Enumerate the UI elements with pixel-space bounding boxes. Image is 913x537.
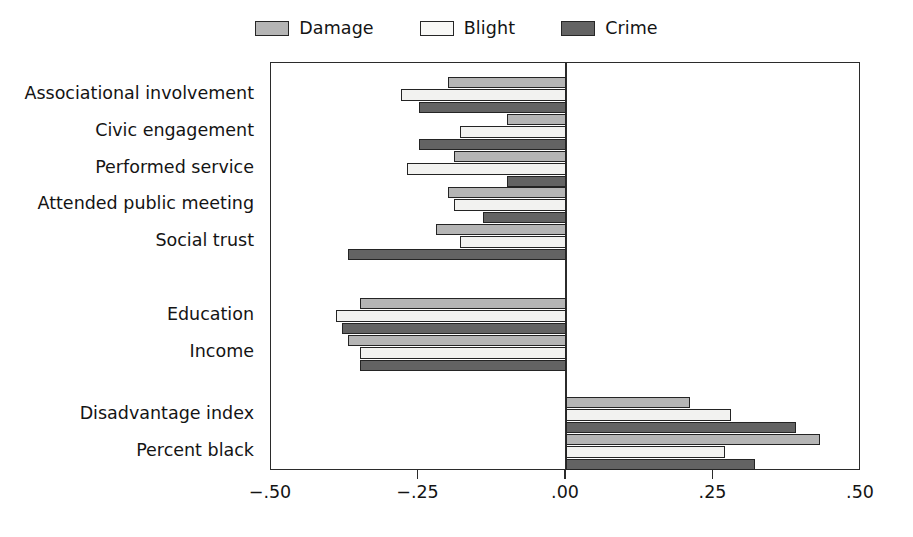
bar-crime — [342, 323, 566, 335]
bar-blight — [454, 199, 566, 211]
y-axis-category-labels: Associational involvementCivic engagemen… — [0, 0, 262, 537]
y-axis-label: Income — [190, 343, 254, 361]
bar-blight — [401, 89, 566, 101]
y-axis-label: Attended public meeting — [37, 195, 254, 213]
bar-damage — [454, 151, 566, 163]
x-axis-tick-label: −.25 — [396, 482, 439, 502]
legend-entry-damage: Damage — [255, 18, 373, 38]
bar-crime — [566, 459, 755, 471]
y-axis-label: Education — [167, 306, 254, 324]
bar-crime — [419, 139, 567, 151]
bar-damage — [348, 335, 566, 347]
legend-label-blight: Blight — [464, 18, 515, 38]
x-axis-tick — [712, 470, 714, 479]
x-axis-tick — [564, 470, 566, 479]
bar-crime — [419, 102, 567, 114]
y-axis-label: Performed service — [95, 159, 254, 177]
y-axis-label: Associational involvement — [24, 85, 254, 103]
bars-layer — [271, 63, 859, 469]
bar-damage — [360, 298, 567, 310]
bar-blight — [566, 446, 725, 458]
legend-label-crime: Crime — [605, 18, 658, 38]
legend-entry-blight: Blight — [420, 18, 515, 38]
plot-area — [270, 62, 860, 470]
bar-damage — [566, 434, 820, 446]
x-axis-tick-label: −.50 — [249, 482, 292, 502]
bar-damage — [448, 187, 566, 199]
bar-damage — [507, 114, 566, 126]
legend-entry-crime: Crime — [561, 18, 658, 38]
y-axis-label: Disadvantage index — [80, 405, 254, 423]
bar-crime — [507, 176, 566, 188]
bar-blight — [336, 310, 566, 322]
bar-crime — [483, 212, 566, 224]
bar-damage — [566, 397, 690, 409]
bar-blight — [360, 347, 567, 359]
chart-root: Damage Blight Crime Associational involv… — [0, 0, 913, 537]
bar-crime — [360, 360, 567, 372]
x-axis-tick-label: .50 — [846, 482, 874, 502]
x-axis-tick — [417, 470, 419, 479]
legend-swatch-crime-icon — [561, 21, 595, 36]
y-axis-label: Civic engagement — [95, 122, 254, 140]
bar-blight — [566, 409, 731, 421]
x-axis-tick-label: .00 — [551, 482, 579, 502]
bar-damage — [448, 77, 566, 89]
y-axis-label: Percent black — [136, 442, 254, 460]
bar-crime — [566, 422, 796, 434]
bar-crime — [348, 249, 566, 261]
x-axis-tick-label: .25 — [699, 482, 727, 502]
legend-swatch-blight-icon — [420, 21, 454, 36]
bar-damage — [436, 224, 566, 236]
bar-blight — [407, 163, 566, 175]
bar-blight — [460, 236, 566, 248]
legend-label-damage: Damage — [299, 18, 373, 38]
bar-blight — [460, 126, 566, 138]
y-axis-label: Social trust — [155, 232, 254, 250]
